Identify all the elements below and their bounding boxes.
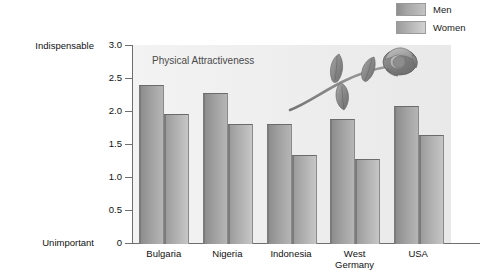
bar-bulgaria-women xyxy=(164,114,189,244)
legend-item-women: Women xyxy=(396,20,496,34)
y-axis-tick-label: 1.0 xyxy=(98,171,122,182)
bar-usa-men xyxy=(394,106,419,244)
y-axis-tick-label: 0.5 xyxy=(98,204,122,215)
bar-nigeria-men xyxy=(203,93,228,244)
bar-edge xyxy=(292,156,294,244)
bar-edge xyxy=(330,120,332,244)
y-axis-tick-label: 3.0 xyxy=(98,39,122,50)
legend-swatch-men-icon xyxy=(396,3,426,16)
legend-label-men: Men xyxy=(433,4,451,15)
y-axis-tick xyxy=(125,111,132,112)
bar-edge xyxy=(355,160,357,244)
y-axis-top-label: Indispensable xyxy=(6,40,94,51)
bar-edge xyxy=(419,136,421,244)
y-axis-tick-label: 1.5 xyxy=(98,138,122,149)
chart-title: Physical Attractiveness xyxy=(152,55,254,66)
y-axis-tick-label: 2.5 xyxy=(98,72,122,83)
bar-edge xyxy=(139,86,141,244)
legend: Men Women xyxy=(396,2,496,38)
bar-usa-women xyxy=(419,135,444,244)
legend-item-men: Men xyxy=(396,2,496,16)
bar-edge xyxy=(394,107,396,244)
y-axis-tick xyxy=(125,243,132,244)
bar-bulgaria-men xyxy=(139,85,164,244)
y-axis-tick-label: 2.0 xyxy=(98,105,122,116)
bar-indonesia-men xyxy=(267,124,292,244)
legend-label-women: Women xyxy=(433,22,466,33)
bar-edge xyxy=(164,115,166,244)
bar-edge xyxy=(228,125,230,244)
y-axis-tick xyxy=(125,45,132,46)
category-label-indonesia: Indonesia xyxy=(259,248,323,259)
legend-swatch-women-icon xyxy=(396,21,426,34)
category-label-west-germany: West Germany xyxy=(323,248,387,270)
category-label-usa: USA xyxy=(386,248,450,259)
bar-nigeria-women xyxy=(228,124,253,244)
y-axis-tick xyxy=(125,177,132,178)
y-axis-tick-label: 0 xyxy=(98,237,122,248)
bar-indonesia-women xyxy=(292,155,317,244)
category-label-nigeria: Nigeria xyxy=(196,248,260,259)
category-label-bulgaria: Bulgaria xyxy=(132,248,196,259)
bar-west-germany-men xyxy=(330,119,355,244)
bar-edge xyxy=(203,94,205,244)
y-axis-tick xyxy=(125,210,132,211)
y-axis-tick xyxy=(125,78,132,79)
y-axis-tick xyxy=(125,144,132,145)
bar-edge xyxy=(267,125,269,244)
bar-west-germany-women xyxy=(355,159,380,244)
y-axis-bottom-label: Unimportant xyxy=(6,237,94,248)
